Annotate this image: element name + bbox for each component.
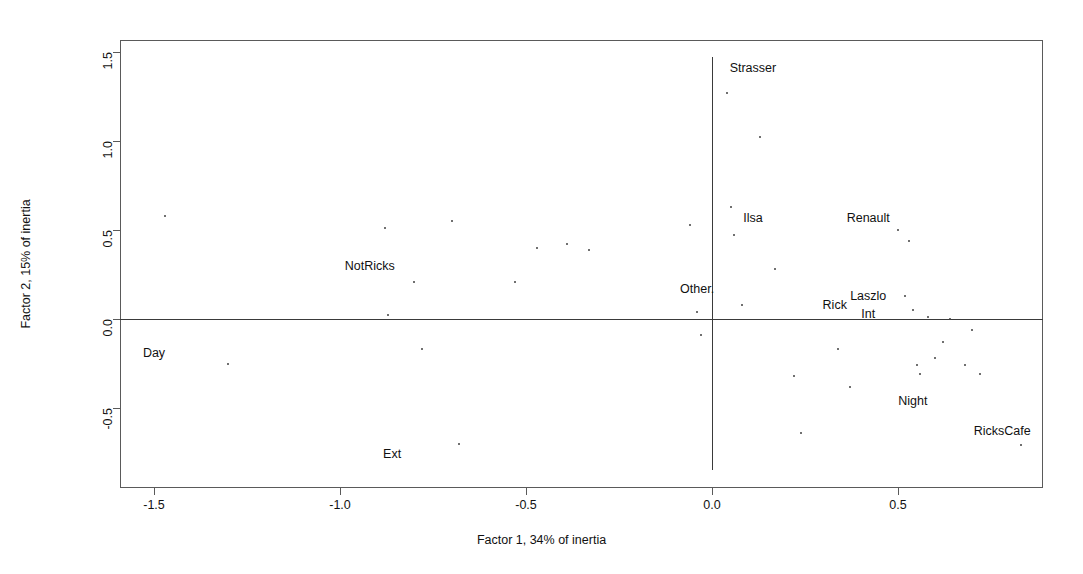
data-point	[800, 432, 802, 434]
data-point	[696, 311, 698, 313]
x-tick	[154, 488, 155, 495]
x-tick-label: 0.0	[703, 498, 720, 512]
x-tick-label: 0.5	[889, 498, 906, 512]
data-point	[942, 341, 944, 343]
data-point	[700, 334, 702, 336]
point-label-int: Int	[861, 307, 875, 320]
point-label-rickscafe: RicksCafe	[974, 425, 1031, 438]
data-point	[934, 357, 936, 359]
y-tick-label: -0.5	[101, 408, 115, 430]
data-point	[904, 295, 906, 297]
data-point	[971, 329, 973, 331]
correspondence-analysis-plot: StrasserIlsaRenaultNotRicksOther.RickLas…	[0, 0, 1083, 574]
point-label-renault: Renault	[847, 211, 890, 224]
data-point	[726, 92, 728, 94]
data-point	[964, 364, 966, 366]
data-point	[227, 363, 229, 365]
y-tick-label: 0.5	[101, 230, 115, 247]
data-point	[897, 229, 899, 231]
data-point	[458, 443, 460, 445]
x-axis-label: Factor 1, 34% of inertia	[0, 533, 1083, 547]
data-point	[979, 373, 981, 375]
x-tick	[340, 488, 341, 495]
data-point	[733, 234, 735, 236]
data-point	[759, 136, 761, 138]
data-point	[514, 281, 516, 283]
data-point	[164, 215, 166, 217]
data-point	[588, 249, 590, 251]
data-point	[387, 314, 389, 316]
data-point	[1020, 444, 1022, 446]
data-point	[908, 240, 910, 242]
data-point	[916, 364, 918, 366]
point-label-rick: Rick	[823, 299, 847, 312]
data-point	[689, 224, 691, 226]
data-point	[774, 268, 776, 270]
point-label-notricks: NotRicks	[345, 259, 395, 272]
data-point	[837, 348, 839, 350]
x-tick-label: -1.5	[143, 498, 165, 512]
data-point	[849, 386, 851, 388]
point-label-strasser: Strasser	[730, 62, 777, 75]
data-point	[451, 220, 453, 222]
point-label-ilsa: Ilsa	[743, 211, 762, 224]
point-label-night: Night	[898, 395, 927, 408]
reference-line-vertical-zero	[712, 57, 713, 470]
y-tick-label: 0.0	[101, 319, 115, 336]
data-point	[566, 243, 568, 245]
point-label-day: Day	[143, 347, 165, 360]
plot-area: StrasserIlsaRenaultNotRicksOther.RickLas…	[120, 40, 1043, 488]
data-point	[413, 281, 415, 283]
point-label-other: Other.	[680, 282, 714, 295]
x-tick	[898, 488, 899, 495]
x-tick	[712, 488, 713, 495]
data-point	[741, 304, 743, 306]
point-label-laszlo: Laszlo	[850, 290, 886, 303]
x-tick-label: -0.5	[515, 498, 537, 512]
data-point	[793, 375, 795, 377]
data-point	[384, 227, 386, 229]
point-label-ext: Ext	[383, 448, 401, 461]
y-tick-label: 1.0	[101, 141, 115, 158]
reference-line-horizontal-zero	[120, 319, 1043, 320]
x-tick-label: -1.0	[329, 498, 351, 512]
x-tick	[526, 488, 527, 495]
y-axis-label: Factor 2, 15% of inertia	[19, 199, 33, 328]
data-point	[919, 373, 921, 375]
data-point	[421, 348, 423, 350]
data-point	[536, 247, 538, 249]
data-point	[927, 316, 929, 318]
y-tick-label: 1.5	[101, 52, 115, 69]
data-point	[912, 309, 914, 311]
data-point	[730, 206, 732, 208]
